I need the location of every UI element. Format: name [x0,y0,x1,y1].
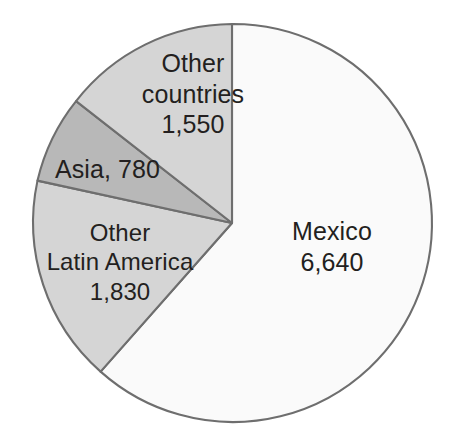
pie-chart: Mexico 6,640 Other Latin America 1,830 A… [0,0,461,447]
pie-chart-svg [0,0,461,447]
